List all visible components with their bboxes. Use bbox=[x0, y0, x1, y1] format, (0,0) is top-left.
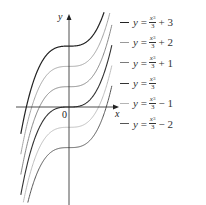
legend-den: 3 bbox=[151, 84, 155, 91]
legend-item: y =x33− 1 bbox=[120, 93, 173, 113]
legend-lhs: y bbox=[133, 36, 138, 48]
legend-eq: = bbox=[141, 77, 147, 89]
legend-eq: = bbox=[141, 57, 147, 69]
legend-tail: + 1 bbox=[158, 57, 172, 69]
legend-exp: 3 bbox=[153, 55, 156, 60]
legend-tail: − 2 bbox=[158, 118, 172, 130]
legend-tail: + 2 bbox=[158, 36, 172, 48]
y-axis-label: y bbox=[58, 11, 62, 22]
legend-swatch bbox=[120, 62, 129, 63]
legend-swatch bbox=[120, 22, 129, 23]
legend-den: 3 bbox=[151, 124, 155, 131]
legend-swatch bbox=[120, 42, 129, 43]
origin-label: 0 bbox=[62, 109, 67, 120]
legend-tail: + 3 bbox=[158, 16, 172, 28]
legend-item: y =x33+ 3 bbox=[120, 12, 173, 32]
legend-swatch bbox=[120, 123, 129, 124]
legend-den: 3 bbox=[151, 23, 155, 30]
y-axis-arrow-icon bbox=[67, 14, 72, 20]
legend-eq: = bbox=[141, 36, 147, 48]
legend-lhs: y bbox=[133, 97, 138, 109]
plot-area bbox=[0, 0, 120, 205]
legend-lhs: y bbox=[133, 57, 138, 69]
legend-item: y =x33 bbox=[120, 73, 173, 93]
legend-item: y =x33+ 2 bbox=[120, 32, 173, 52]
legend-swatch bbox=[120, 83, 129, 84]
legend-den: 3 bbox=[151, 43, 155, 50]
legend-den: 3 bbox=[151, 104, 155, 111]
x-axis-label: x bbox=[115, 108, 119, 119]
legend-exp: 3 bbox=[153, 15, 156, 20]
legend-eq: = bbox=[141, 97, 147, 109]
legend-exp: 3 bbox=[153, 35, 156, 40]
legend-exp: 3 bbox=[153, 96, 156, 101]
legend-eq: = bbox=[141, 16, 147, 28]
curve bbox=[28, 86, 112, 203]
curve-group bbox=[21, 12, 112, 202]
legend-swatch bbox=[120, 103, 129, 104]
legend-exp: 3 bbox=[153, 116, 156, 121]
legend-lhs: y bbox=[133, 77, 138, 89]
legend-lhs: y bbox=[133, 118, 138, 130]
legend-den: 3 bbox=[151, 63, 155, 70]
legend-tail: − 1 bbox=[158, 97, 172, 109]
legend: y =x33+ 3 y =x33+ 2 y =x33+ 1 y =x33 y =… bbox=[120, 12, 173, 134]
curve bbox=[21, 13, 110, 154]
legend-item: y =x33− 2 bbox=[120, 113, 173, 133]
legend-exp: 3 bbox=[153, 76, 156, 81]
legend-eq: = bbox=[141, 118, 147, 130]
legend-lhs: y bbox=[133, 16, 138, 28]
legend-item: y =x33+ 1 bbox=[120, 53, 173, 73]
